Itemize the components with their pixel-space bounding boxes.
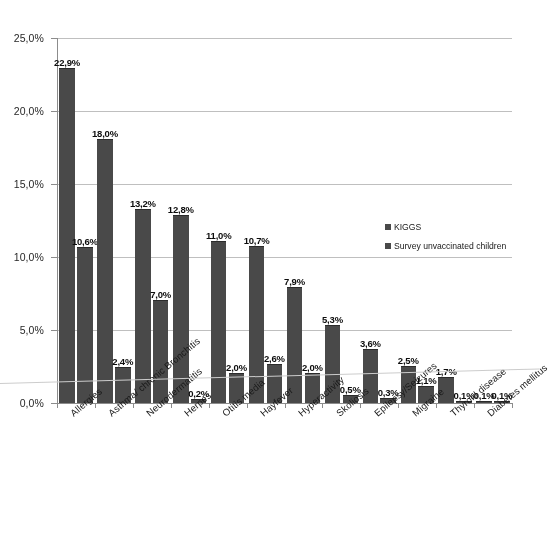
x-tick-mark — [512, 403, 513, 408]
bar-group: 10,7%2,6% — [249, 38, 282, 403]
bar-value-label: 12,8% — [168, 204, 194, 215]
bar-group: 13,2%7,0% — [135, 38, 168, 403]
bar-group: 3,6%0,3% — [363, 38, 396, 403]
legend-swatch-icon — [385, 224, 391, 230]
bar-value-label: 11,0% — [206, 230, 231, 241]
bar-value-label: 2,6% — [264, 353, 285, 364]
bar-group: 7,9%2,0% — [287, 38, 320, 403]
bar-value-label: 2,4% — [112, 356, 133, 367]
y-tick-label: 10,0% — [0, 251, 44, 263]
x-tick-mark — [474, 403, 475, 408]
x-tick-mark — [171, 403, 172, 408]
x-tick-mark — [360, 403, 361, 408]
x-tick-mark — [436, 403, 437, 408]
bar-survey: 7,0% — [153, 300, 169, 403]
bar-group: 1,7%0,1% — [438, 38, 471, 403]
bar-value-label: 13,2% — [130, 198, 156, 209]
bar-group: 11,0%2,0% — [211, 38, 244, 403]
y-tick-label: 5,0% — [0, 324, 44, 336]
x-tick-mark — [209, 403, 210, 408]
bar-group: 0,1%0,1% — [476, 38, 509, 403]
plot-area: 22,9%10,6%18,0%2,4%13,2%7,0%12,8%0,2%11,… — [57, 38, 512, 404]
bar-value-label: 7,0% — [150, 289, 171, 300]
bar-value-label: 10,7% — [244, 235, 270, 246]
bar-value-label: 2,0% — [302, 362, 323, 373]
y-tick-label: 25,0% — [0, 32, 44, 44]
legend-swatch-icon — [385, 243, 391, 249]
x-tick-mark — [247, 403, 248, 408]
legend-item-kiggs: KIGGS — [385, 222, 506, 232]
y-tick-label: 20,0% — [0, 105, 44, 117]
x-tick-mark — [95, 403, 96, 408]
bar-value-label: 7,9% — [284, 276, 305, 287]
y-tick-mark — [51, 330, 57, 331]
x-tick-mark — [398, 403, 399, 408]
bar-value-label: 22,9% — [54, 57, 80, 68]
x-tick-mark — [285, 403, 286, 408]
y-tick-label: 15,0% — [0, 178, 44, 190]
bar-survey: 10,6% — [77, 247, 93, 403]
y-tick-mark — [51, 38, 57, 39]
legend: KIGGS Survey unvaccinated children — [385, 222, 506, 260]
legend-label-kiggs: KIGGS — [394, 222, 421, 232]
bar-value-label: 18,0% — [92, 128, 118, 139]
bar-group: 2,5%1,1% — [401, 38, 434, 403]
bar-kiggs: 11,0% — [211, 241, 227, 403]
y-tick-label: 0,0% — [0, 397, 44, 409]
y-tick-mark — [51, 184, 57, 185]
x-tick-mark — [133, 403, 134, 408]
x-tick-mark — [57, 403, 58, 408]
bar-group: 22,9%10,6% — [59, 38, 92, 403]
legend-item-survey: Survey unvaccinated children — [385, 241, 506, 251]
bar-value-label: 10,6% — [72, 236, 98, 247]
bar-value-label: 5,3% — [322, 314, 343, 325]
y-axis-line — [57, 38, 58, 404]
bar-group: 5,3%0,5% — [325, 38, 358, 403]
bar-value-label: 3,6% — [360, 338, 381, 349]
y-tick-mark — [51, 257, 57, 258]
bar-kiggs: 18,0% — [97, 139, 113, 403]
x-tick-mark — [322, 403, 323, 408]
bar-kiggs: 0,1% — [476, 401, 492, 403]
bar-value-label: 2,5% — [398, 355, 419, 366]
bar-group: 18,0%2,4% — [97, 38, 130, 403]
legend-label-survey: Survey unvaccinated children — [394, 241, 506, 251]
bar-value-label: 2,0% — [226, 362, 247, 373]
y-tick-mark — [51, 111, 57, 112]
